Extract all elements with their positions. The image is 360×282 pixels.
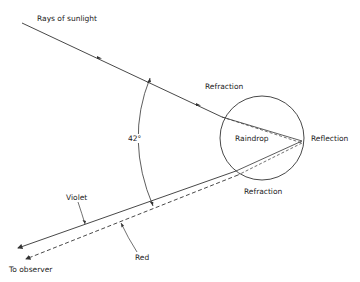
- sunlight-direction-arrow: [97, 56, 102, 59]
- red-leader: [121, 223, 137, 252]
- rainbow-diagram: [0, 0, 360, 282]
- label-angle: 42°: [128, 134, 141, 143]
- label-observer: To observer: [9, 265, 52, 274]
- label-reflection: Reflection: [311, 134, 348, 143]
- sunlight-direction-arrow-2: [196, 103, 201, 106]
- red-ray: [26, 175, 238, 259]
- label-refraction-in: Refraction: [205, 82, 243, 91]
- angle-arc-arrow-bottom: [150, 202, 154, 207]
- angle-arc-arrow-top: [147, 78, 151, 83]
- red-inside-ray-out: [238, 143, 302, 175]
- label-refraction-out: Refraction: [244, 187, 282, 196]
- violet-ray: [18, 171, 236, 248]
- label-red: Red: [135, 253, 149, 262]
- label-raindrop: Raindrop: [235, 134, 269, 143]
- sunlight-ray: [22, 23, 222, 117]
- label-sunlight: Rays of sunlight: [37, 14, 97, 23]
- violet-leader-arrow: [83, 220, 87, 224]
- violet-inside-ray-out: [236, 141, 302, 171]
- label-violet: Violet: [66, 193, 87, 202]
